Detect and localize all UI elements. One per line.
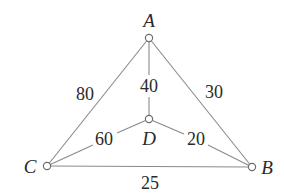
weight-label-d-b: 20 (187, 129, 205, 149)
weighted-graph-diagram: 80 30 40 60 20 25 A B C D (0, 0, 284, 195)
edge-d-b-lower (208, 145, 252, 167)
node-a-circle-icon (145, 34, 152, 41)
node-label-b: B (261, 157, 273, 178)
weight-label-c-b: 25 (141, 173, 159, 193)
node-d-circle-icon (145, 115, 152, 122)
node-label-a: A (141, 10, 155, 31)
weight-label-c-d: 60 (95, 129, 113, 149)
weight-label-a-b: 30 (205, 82, 223, 102)
node-label-d: D (141, 128, 156, 149)
node-b-circle-icon (248, 163, 255, 170)
weight-label-a-d: 40 (140, 76, 158, 96)
edge-c-b (47, 166, 252, 167)
weight-label-a-c: 80 (76, 84, 94, 104)
node-c-circle-icon (43, 162, 50, 169)
edge-c-d-lower (47, 145, 93, 166)
node-label-c: C (24, 156, 37, 177)
